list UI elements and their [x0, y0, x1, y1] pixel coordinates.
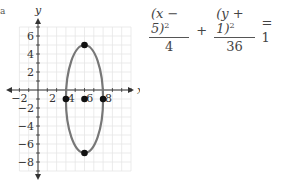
fraction-x-term: (x − 5)2 4 — [149, 6, 189, 54]
svg-text:−6: −6 — [18, 138, 34, 151]
svg-text:−4: −4 — [18, 120, 34, 133]
svg-text:y: y — [34, 4, 42, 17]
ellipse-graph: xy−22468642−2−4−6−8 — [0, 0, 140, 185]
svg-text:2: 2 — [49, 92, 56, 105]
point-co-vertex — [63, 96, 70, 103]
point-center — [81, 96, 88, 103]
point-vertex — [81, 42, 88, 49]
svg-text:−2: −2 — [18, 102, 34, 115]
fraction-y-term: (y + 1)2 36 — [214, 6, 254, 54]
svg-text:−8: −8 — [18, 156, 34, 169]
point-vertex — [81, 150, 88, 157]
ellipse-equation: (x − 5)2 4 + (y + 1)2 36 = 1 — [146, 6, 283, 54]
svg-text:x: x — [137, 84, 140, 97]
plus-sign: + — [196, 23, 207, 38]
point-co-vertex — [100, 96, 107, 103]
svg-text:2: 2 — [27, 66, 34, 79]
equals-one: = 1 — [262, 15, 279, 45]
svg-text:4: 4 — [27, 48, 34, 61]
svg-text:6: 6 — [27, 30, 34, 43]
